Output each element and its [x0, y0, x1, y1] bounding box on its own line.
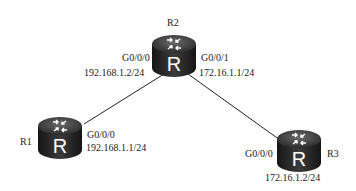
svg-text:R: R [292, 148, 306, 170]
r2-interface-g0-name: G0/0/0 [122, 52, 150, 63]
r1-interface-g0-ip: 192.168.1.1/24 [86, 142, 146, 153]
router-label-r3: R3 [327, 148, 339, 159]
router-icon[interactable]: R [275, 125, 323, 173]
router-icon[interactable]: R [150, 30, 198, 78]
network-diagram: R R R R2 G0/0/0 192.168.1.2/24 G0/0/1 17… [0, 0, 356, 191]
svg-text:R: R [167, 53, 181, 75]
router-label-r2: R2 [167, 17, 179, 28]
router-icon[interactable]: R [36, 112, 84, 160]
link-r2-r3 [188, 74, 280, 140]
r3-interface-g0-ip: 172.16.1.2/24 [265, 172, 320, 183]
link-r1-r2 [84, 74, 164, 124]
r1-interface-g0-name: G0/0/0 [87, 129, 115, 140]
r2-interface-g1-name: G0/0/1 [201, 52, 229, 63]
r2-interface-g1-ip: 172.16.1.1/24 [199, 67, 254, 78]
r3-interface-g0-name: G0/0/0 [245, 148, 273, 159]
router-label-r1: R1 [20, 136, 32, 147]
svg-text:R: R [53, 135, 67, 157]
r2-interface-g0-ip: 192.168.1.2/24 [84, 67, 144, 78]
